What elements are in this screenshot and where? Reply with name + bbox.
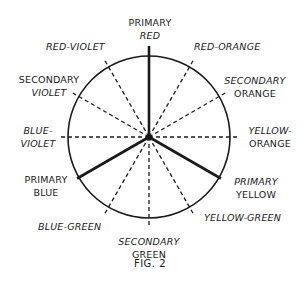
label-line: RED-ORANGE	[194, 40, 260, 53]
label-line: VIOLET	[16, 137, 60, 150]
label-line: ORANGE	[244, 137, 296, 150]
label-line: RED-VIOLET	[46, 40, 105, 53]
label-line: ORANGE	[222, 87, 288, 100]
label-line: YELLOW-	[244, 124, 296, 137]
label-line: SECONDARY	[14, 73, 84, 86]
label-primary-red: PRIMARY RED	[124, 16, 176, 42]
label-line: YELLOW	[228, 188, 284, 201]
label-primary-blue: PRIMARY BLUE	[20, 173, 72, 199]
label-primary-yellow: PRIMARY YELLOW	[228, 175, 284, 201]
label-line: PRIMARY	[228, 175, 284, 188]
spoke-secondary-orange	[149, 92, 228, 138]
spoke-primary-blue	[77, 137, 149, 179]
label-line: SECONDARY	[222, 74, 288, 87]
label-line: SECONDARY	[116, 235, 182, 248]
label-line: PRIMARY	[124, 16, 176, 29]
label-yellow-green: YELLOW-GREEN	[204, 211, 281, 224]
label-red-violet: RED-VIOLET	[46, 40, 105, 53]
label-line: BLUE-GREEN	[38, 220, 101, 233]
label-line: PRIMARY	[20, 173, 72, 186]
label-blue-violet: BLUE- VIOLET	[16, 124, 60, 150]
label-line: YELLOW-GREEN	[204, 211, 281, 224]
spoke-red-violet	[104, 58, 150, 137]
label-line: BLUE-	[16, 124, 60, 137]
wheel-center-dot	[146, 134, 152, 140]
figure-caption: FIG. 2	[0, 258, 300, 269]
label-secondary-orange: SECONDARY ORANGE	[222, 74, 288, 100]
spoke-primary-yellow	[149, 137, 221, 179]
label-line: BLUE	[20, 186, 72, 199]
label-yellow-orange: YELLOW- ORANGE	[244, 124, 296, 150]
label-red-orange: RED-ORANGE	[194, 40, 260, 53]
label-secondary-violet: SECONDARY VIOLET	[14, 73, 84, 99]
label-line: RED	[124, 29, 176, 42]
label-blue-green: BLUE-GREEN	[38, 220, 101, 233]
label-line: VIOLET	[14, 86, 84, 99]
spoke-red-orange	[149, 58, 195, 137]
